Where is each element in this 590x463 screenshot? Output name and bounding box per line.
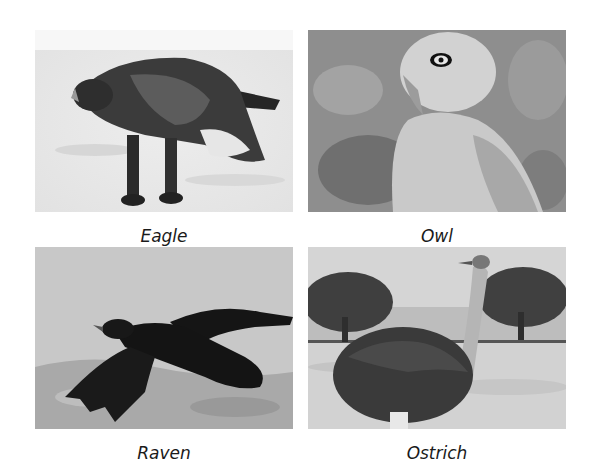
grid-item-raven: Raven xyxy=(35,247,293,429)
caption-owl: Owl xyxy=(308,226,566,246)
ostrich-photo xyxy=(308,247,566,429)
caption-eagle: Eagle xyxy=(35,226,293,246)
caption-ostrich: Ostrich xyxy=(308,443,566,463)
grid-item-owl: Owl xyxy=(308,30,566,212)
owl-photo xyxy=(308,30,566,212)
grid-item-ostrich: Ostrich xyxy=(308,247,566,429)
eagle-photo xyxy=(35,30,293,212)
raven-photo xyxy=(35,247,293,429)
caption-raven: Raven xyxy=(35,443,293,463)
grid-item-eagle: Eagle xyxy=(35,30,293,212)
